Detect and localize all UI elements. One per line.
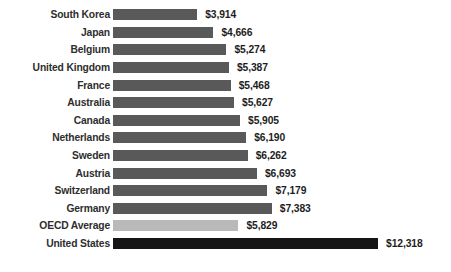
bar-chart-row: Switzerland$7,179 bbox=[0, 182, 451, 200]
bar-category-label: France bbox=[0, 80, 110, 91]
bar-category-label: Australia bbox=[0, 97, 110, 108]
bar bbox=[113, 44, 226, 55]
bar-track: $7,383 bbox=[110, 200, 451, 218]
bar-chart: South Korea$3,914Japan$4,666Belgium$5,27… bbox=[0, 0, 451, 272]
bar-track: $3,914 bbox=[110, 6, 451, 24]
bar bbox=[113, 238, 378, 249]
bar-chart-row: Germany$7,383 bbox=[0, 200, 451, 218]
bar bbox=[113, 97, 234, 108]
bar-chart-row: France$5,468 bbox=[0, 76, 451, 94]
bar-chart-row: OECD Average$5,829 bbox=[0, 217, 451, 235]
bar-track: $12,318 bbox=[110, 235, 451, 253]
bar-chart-row: Japan$4,666 bbox=[0, 24, 451, 42]
bar-track: $5,387 bbox=[110, 59, 451, 77]
bar-chart-row: Austria$6,693 bbox=[0, 164, 451, 182]
bar-category-label: Belgium bbox=[0, 44, 110, 55]
bar-value-label: $7,179 bbox=[275, 185, 306, 196]
bar-track: $4,666 bbox=[110, 24, 451, 42]
bar-track: $6,693 bbox=[110, 164, 451, 182]
bar bbox=[113, 185, 267, 196]
bar-category-label: South Korea bbox=[0, 9, 110, 20]
bar-chart-row: Canada$5,905 bbox=[0, 112, 451, 130]
bar-chart-row: United States$12,318 bbox=[0, 235, 451, 253]
bar-track: $5,829 bbox=[110, 217, 451, 235]
bar-category-label: Germany bbox=[0, 203, 110, 214]
bar-chart-row: South Korea$3,914 bbox=[0, 6, 451, 24]
bar bbox=[113, 168, 257, 179]
bar bbox=[113, 150, 248, 161]
bar-value-label: $3,914 bbox=[205, 9, 236, 20]
bar-value-label: $7,383 bbox=[280, 203, 311, 214]
bar-category-label: Austria bbox=[0, 168, 110, 179]
bar-track: $5,905 bbox=[110, 112, 451, 130]
bar-value-label: $5,387 bbox=[237, 62, 268, 73]
bar-track: $6,190 bbox=[110, 129, 451, 147]
bar-value-label: $12,318 bbox=[386, 238, 423, 249]
bar-category-label: Canada bbox=[0, 115, 110, 126]
bar-value-label: $5,829 bbox=[246, 220, 277, 231]
bar-category-label: Switzerland bbox=[0, 185, 110, 196]
bar-track: $5,627 bbox=[110, 94, 451, 112]
bar-value-label: $6,262 bbox=[256, 150, 287, 161]
bar bbox=[113, 115, 240, 126]
bar bbox=[113, 132, 246, 143]
bar-chart-row: Netherlands$6,190 bbox=[0, 129, 451, 147]
bar-category-label: OECD Average bbox=[0, 220, 110, 231]
bar bbox=[113, 220, 238, 231]
bar-value-label: $5,905 bbox=[248, 115, 279, 126]
bar-value-label: $6,693 bbox=[265, 168, 296, 179]
bar-chart-row: United Kingdom$5,387 bbox=[0, 59, 451, 77]
bar-category-label: United States bbox=[0, 238, 110, 249]
bar-value-label: $5,627 bbox=[242, 97, 273, 108]
bar bbox=[113, 203, 272, 214]
bar-chart-row: Australia$5,627 bbox=[0, 94, 451, 112]
bar-value-label: $4,666 bbox=[221, 27, 252, 38]
bar-track: $5,274 bbox=[110, 41, 451, 59]
bar-chart-row: Belgium$5,274 bbox=[0, 41, 451, 59]
bar-value-label: $5,468 bbox=[239, 80, 270, 91]
bar-track: $5,468 bbox=[110, 76, 451, 94]
bar-category-label: Sweden bbox=[0, 150, 110, 161]
bar-category-label: Netherlands bbox=[0, 132, 110, 143]
bar bbox=[113, 27, 213, 38]
bar bbox=[113, 62, 229, 73]
bar-track: $6,262 bbox=[110, 147, 451, 165]
bar bbox=[113, 9, 197, 20]
bar-value-label: $6,190 bbox=[254, 132, 285, 143]
bar-value-label: $5,274 bbox=[234, 44, 265, 55]
bar-category-label: United Kingdom bbox=[0, 62, 110, 73]
bar-chart-row: Sweden$6,262 bbox=[0, 147, 451, 165]
bar-category-label: Japan bbox=[0, 27, 110, 38]
bar-chart-rows: South Korea$3,914Japan$4,666Belgium$5,27… bbox=[0, 6, 451, 252]
bar bbox=[113, 80, 231, 91]
bar-track: $7,179 bbox=[110, 182, 451, 200]
